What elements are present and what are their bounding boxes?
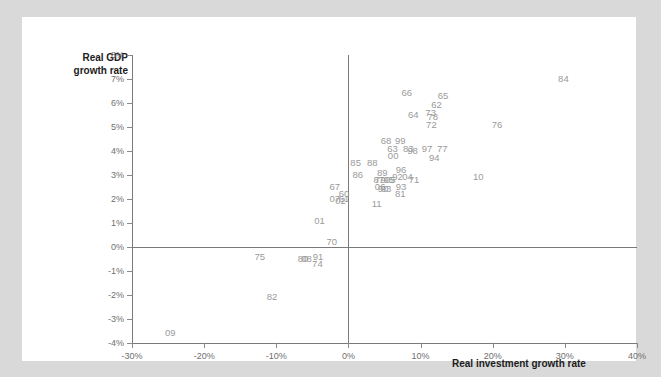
y-tick-label: 2%: [111, 194, 124, 204]
y-tick-label: 7%: [111, 74, 124, 84]
y-tick-mark: [127, 223, 132, 224]
y-tick-label: 3%: [111, 170, 124, 180]
x-tick-mark: [204, 343, 205, 348]
x-tick-label: 40%: [628, 351, 646, 361]
plot-area: -4%-3%-2%-1%0%1%2%3%4%5%6%7%8% -30%-20%-…: [132, 55, 637, 343]
x-tick-mark: [348, 343, 349, 348]
y-tick-mark: [127, 247, 132, 248]
data-point-label: 86: [353, 170, 364, 180]
x-tick-label: -10%: [266, 351, 287, 361]
y-tick-label: 0%: [111, 242, 124, 252]
data-point-label: 85: [350, 158, 361, 168]
zero-horizontal-axis-line: [132, 247, 637, 248]
data-point-label: 01: [314, 216, 325, 226]
x-tick-label: 0%: [342, 351, 355, 361]
y-tick-label: -2%: [108, 290, 124, 300]
x-tick-label: -20%: [194, 351, 215, 361]
chart-panel: Real GDPgrowth rate Real investment grow…: [22, 17, 636, 361]
data-point-label: 72: [426, 120, 437, 130]
data-point-label: 74: [312, 259, 323, 269]
y-tick-mark: [127, 199, 132, 200]
x-axis-line: [132, 343, 637, 344]
data-point-label: 66: [402, 89, 413, 99]
y-tick-label: 8%: [111, 50, 124, 60]
data-point-label: 02: [335, 197, 346, 207]
x-tick-mark: [637, 343, 638, 348]
y-tick-label: -3%: [108, 314, 124, 324]
y-tick-mark: [127, 151, 132, 152]
x-tick-mark: [132, 343, 133, 348]
data-point-label: 09: [165, 329, 176, 339]
x-tick-label: 30%: [556, 351, 574, 361]
y-tick-label: 5%: [111, 122, 124, 132]
x-tick-label: 20%: [484, 351, 502, 361]
data-point-label: 84: [558, 74, 569, 84]
y-tick-label: 6%: [111, 98, 124, 108]
data-point-label: 64: [408, 110, 419, 120]
y-tick-mark: [127, 319, 132, 320]
data-point-label: 71: [409, 175, 420, 185]
y-tick-mark: [127, 175, 132, 176]
x-tick-mark: [565, 343, 566, 348]
data-point-label: 11: [372, 199, 382, 209]
y-tick-mark: [127, 79, 132, 80]
y-tick-mark: [127, 271, 132, 272]
x-tick-mark: [493, 343, 494, 348]
y-tick-mark: [127, 55, 132, 56]
y-tick-label: -1%: [108, 266, 124, 276]
data-point-label: 90: [378, 185, 389, 195]
x-tick-mark: [421, 343, 422, 348]
data-point-label: 00: [388, 151, 399, 161]
data-point-label: 70: [327, 237, 338, 247]
chart-page: Real GDPgrowth rate Real investment grow…: [0, 0, 661, 377]
data-point-label: 94: [429, 153, 440, 163]
x-tick-label: -30%: [121, 351, 142, 361]
y-tick-label: -4%: [108, 338, 124, 348]
data-point-label: 81: [395, 189, 406, 199]
data-point-label: 88: [367, 158, 378, 168]
data-point-label: 75: [254, 252, 265, 262]
y-tick-mark: [127, 127, 132, 128]
data-point-label: 76: [492, 120, 503, 130]
y-tick-mark: [127, 103, 132, 104]
y-tick-label: 1%: [111, 218, 124, 228]
y-tick-mark: [127, 295, 132, 296]
x-tick-mark: [276, 343, 277, 348]
data-point-label: 08: [301, 254, 312, 264]
data-point-label: 10: [473, 173, 484, 183]
data-point-label: 98: [407, 146, 418, 156]
x-tick-label: 10%: [412, 351, 430, 361]
data-point-label: 82: [267, 293, 278, 303]
y-axis-line: [132, 55, 133, 343]
y-tick-label: 4%: [111, 146, 124, 156]
